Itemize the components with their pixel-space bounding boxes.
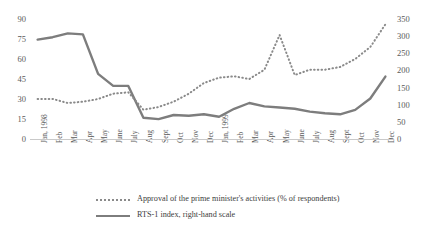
y-tick-left-75: 75	[4, 35, 26, 44]
y-tick-right-200: 200	[397, 66, 423, 75]
y-tick-right-150: 150	[397, 84, 423, 93]
y-tick-left-60: 60	[4, 55, 26, 64]
plot-area	[30, 19, 393, 139]
y-tick-right-300: 300	[397, 32, 423, 41]
chart-legend: Approval of the prime minister's activit…	[96, 192, 426, 224]
y-tick-right-100: 100	[397, 101, 423, 110]
y-tick-left-0: 0	[4, 135, 26, 144]
y-tick-right-0: 0	[397, 135, 423, 144]
legend-label-approval: Approval of the prime minister's activit…	[137, 194, 339, 203]
y-tick-left-90: 90	[4, 15, 26, 24]
x-axis-line	[30, 139, 393, 140]
legend-item-approval: Approval of the prime minister's activit…	[96, 192, 426, 204]
chart-container: 0153045607590 050100150200250300350 Jan,…	[0, 0, 434, 237]
legend-label-rts1: RTS-1 index, right-hand scale	[137, 210, 235, 219]
y-tick-left-45: 45	[4, 75, 26, 84]
y-tick-left-15: 15	[4, 115, 26, 124]
series-lines	[30, 19, 393, 139]
legend-item-rts1: RTS-1 index, right-hand scale	[96, 208, 426, 220]
y-tick-right-350: 350	[397, 15, 423, 24]
solid-line-swatch-icon	[96, 215, 130, 217]
dotted-line-swatch-icon	[96, 199, 130, 201]
y-tick-right-250: 250	[397, 49, 423, 58]
rts1-index-line	[38, 33, 386, 119]
y-tick-right-50: 50	[397, 118, 423, 127]
y-tick-left-30: 30	[4, 95, 26, 104]
approval-line	[38, 24, 386, 109]
